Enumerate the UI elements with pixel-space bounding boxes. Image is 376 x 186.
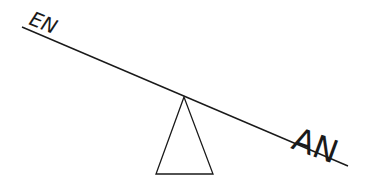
label-left: EN xyxy=(26,6,61,39)
label-right: AN xyxy=(287,120,343,171)
fulcrum-triangle xyxy=(156,97,213,174)
seesaw-diagram: EN AN xyxy=(0,0,376,186)
